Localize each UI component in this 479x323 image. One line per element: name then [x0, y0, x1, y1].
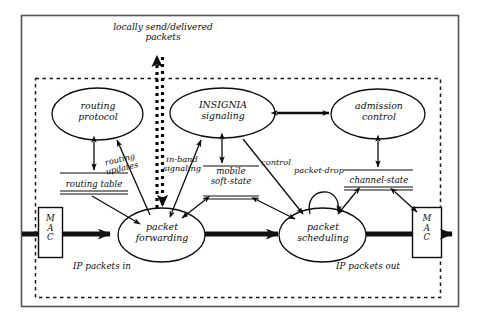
- mac-box-right: [413, 208, 442, 258]
- edge-in-band-signaling: [172, 140, 201, 212]
- node-packet-forwarding: [118, 208, 205, 262]
- store-mobile-soft-state: [203, 166, 259, 199]
- edge-control: [243, 139, 303, 214]
- mac-box-left: [39, 208, 63, 258]
- store-routing-table: [60, 173, 128, 194]
- edge-mobile-soft-state-packet-scheduling: [257, 200, 295, 219]
- node-insignia-signaling: [170, 88, 275, 138]
- outer-frame: [22, 16, 459, 307]
- diagram-graphics: [0, 0, 479, 323]
- edge-routing-updates: [117, 140, 150, 215]
- edge-channel-state-mac: [395, 192, 417, 212]
- edge-channel-state-packet-scheduling: [338, 192, 356, 214]
- node-packet-scheduling: [279, 208, 366, 262]
- diagram-canvas: locally send/delivered packets routing p…: [0, 0, 479, 323]
- node-admission-control: [331, 89, 425, 139]
- edge-routing-table-packet-forwarding: [92, 196, 140, 224]
- store-channel-state: [344, 170, 413, 190]
- edge-mobile-soft-state-packet-forwarding: [182, 200, 205, 218]
- node-routing-protocol: [52, 88, 143, 140]
